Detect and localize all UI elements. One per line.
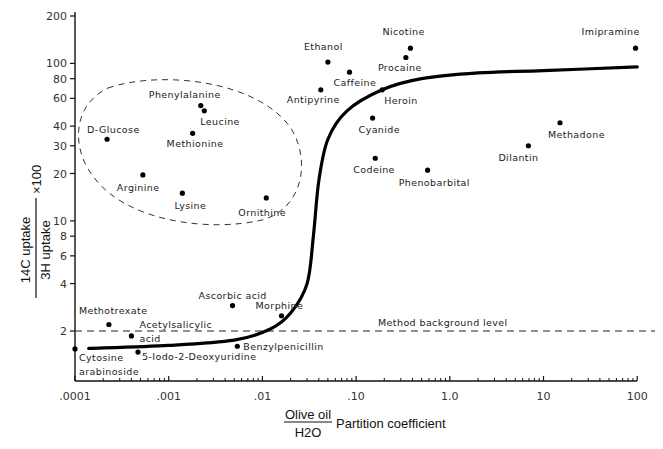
- point-label: Phenylalanine: [149, 89, 221, 100]
- point-marker: [140, 172, 145, 177]
- point-label: Ethanol: [304, 41, 343, 52]
- data-point: Benzylpenicillin: [235, 341, 324, 352]
- point-label: 5-Iodo-2-Deoxyuridine: [142, 351, 256, 362]
- point-label: Arginine: [117, 182, 160, 193]
- point-label: Phenobarbital: [399, 177, 470, 188]
- point-marker: [106, 322, 111, 327]
- data-point: Ornithine: [238, 195, 286, 218]
- x-tick-label: 1.0: [441, 390, 459, 403]
- y-axis-title: 14C uptake 3H uptake ×100: [6, 120, 66, 360]
- data-point: D-Glucose: [87, 124, 140, 142]
- point-label: Acetylsalicylic: [139, 319, 212, 330]
- point-label: Codeine: [353, 164, 395, 175]
- point-label: Cytosine: [79, 352, 123, 363]
- point-marker: [380, 87, 385, 92]
- point-label: Lysine: [174, 200, 206, 211]
- point-marker: [279, 313, 284, 318]
- point-marker: [318, 87, 323, 92]
- data-point: Leucine: [200, 108, 240, 127]
- y-axis-title-denominator: 3H uptake: [38, 220, 53, 279]
- data-point: Dilantin: [498, 143, 538, 163]
- background-level-label: Method background level: [378, 317, 508, 328]
- point-label: arabinoside: [79, 366, 139, 377]
- point-label: Caffeine: [333, 77, 376, 88]
- data-point: Imipramine: [582, 26, 640, 51]
- y-tick-label: 100: [46, 57, 67, 70]
- data-point: Arginine: [117, 172, 160, 193]
- scatter-plot: .0001.001.01.101.010100 2468102030406080…: [0, 0, 663, 449]
- y-tick-label: 200: [46, 10, 67, 23]
- point-label: Ornithine: [238, 207, 286, 218]
- x-axis-title: Olive oilH2OPartition coefficient: [284, 407, 446, 440]
- data-point: Cyanide: [359, 115, 400, 135]
- point-marker: [235, 344, 240, 349]
- point-label: Nicotine: [382, 26, 424, 37]
- point-marker: [425, 168, 430, 173]
- x-tick-label: .0001: [59, 390, 91, 403]
- point-marker: [325, 59, 330, 64]
- x-tick-label: 10: [537, 390, 551, 403]
- point-marker: [230, 303, 235, 308]
- data-point: Nicotine: [382, 26, 424, 51]
- point-label: acid: [139, 333, 160, 344]
- data-point: Caffeine: [333, 70, 376, 89]
- data-point: Codeine: [353, 156, 395, 176]
- data-point: Morphine: [256, 300, 304, 319]
- x-ticks: .0001.001.01.101.010100: [59, 376, 647, 403]
- data-point: Ethanol: [304, 41, 343, 65]
- point-label: Methionine: [167, 138, 224, 149]
- data-point: Phenobarbital: [399, 168, 470, 189]
- point-marker: [370, 115, 375, 120]
- data-point: Methadone: [548, 120, 605, 140]
- data-point: 5-Iodo-2-Deoxyuridine: [135, 349, 256, 362]
- point-marker: [526, 143, 531, 148]
- x-tick-label: .001: [156, 390, 181, 403]
- data-point: Methotrexate: [79, 305, 148, 327]
- point-marker: [129, 333, 134, 338]
- x-tick-label: .10: [347, 390, 365, 403]
- point-marker: [198, 103, 203, 108]
- point-marker: [104, 137, 109, 142]
- y-axis-title-numerator: 14C uptake: [18, 217, 33, 284]
- x-axis-title-suffix: Partition coefficient: [336, 416, 446, 431]
- x-axis-title-denominator: H2O: [295, 425, 322, 440]
- point-label: Benzylpenicillin: [243, 341, 323, 352]
- y-tick-label: 60: [53, 92, 67, 105]
- point-marker: [633, 46, 638, 51]
- point-marker: [557, 120, 562, 125]
- data-point: Antipyrine: [287, 87, 340, 105]
- point-marker: [202, 108, 207, 113]
- point-label: D-Glucose: [87, 124, 140, 135]
- point-marker: [373, 156, 378, 161]
- fit-curve: [89, 67, 638, 349]
- point-label: Dilantin: [498, 152, 538, 163]
- x-tick-label: 100: [627, 390, 648, 403]
- data-point: Phenylalanine: [149, 89, 221, 109]
- point-marker: [72, 346, 77, 351]
- point-marker: [135, 349, 140, 354]
- y-tick-label: 80: [53, 73, 67, 86]
- y-axis-title-multiplier: ×100: [29, 165, 44, 194]
- x-tick-label: .01: [254, 390, 272, 403]
- point-label: Morphine: [256, 300, 304, 311]
- point-marker: [190, 131, 195, 136]
- point-label: Antipyrine: [287, 94, 340, 105]
- point-label: Methotrexate: [79, 305, 148, 316]
- data-points: CytosinearabinosideMethotrexateAcetylsal…: [72, 26, 639, 377]
- data-point: Cytosinearabinoside: [72, 346, 139, 377]
- data-point: Lysine: [174, 191, 206, 212]
- point-marker: [180, 191, 185, 196]
- point-label: Procaine: [378, 62, 422, 73]
- point-marker: [408, 46, 413, 51]
- data-point: Methionine: [167, 131, 224, 150]
- point-marker: [347, 70, 352, 75]
- point-marker: [264, 195, 269, 200]
- point-label: Heroin: [384, 95, 418, 106]
- data-point: Procaine: [378, 55, 422, 73]
- point-label: Imipramine: [582, 26, 640, 37]
- point-label: Cyanide: [359, 124, 400, 135]
- x-axis-title-numerator: Olive oil: [285, 407, 331, 422]
- point-marker: [403, 55, 408, 60]
- point-label: Leucine: [200, 116, 240, 127]
- point-label: Methadone: [548, 129, 605, 140]
